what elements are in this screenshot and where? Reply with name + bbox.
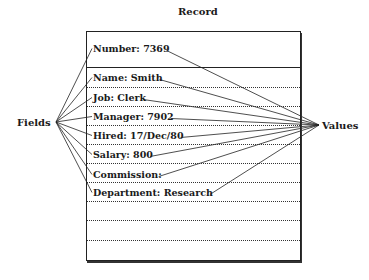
row-separator bbox=[87, 125, 300, 126]
row-separator bbox=[87, 182, 300, 183]
field-hired: Hired: 17/Dec/80 bbox=[93, 130, 184, 141]
row-separator bbox=[87, 144, 300, 145]
field-manager: Manager: 7902 bbox=[93, 111, 174, 122]
field-job: Job: Clerk bbox=[93, 92, 146, 103]
record-box: Number: 7369 Name: Smith Job: Clerk Mana… bbox=[86, 31, 301, 261]
row-separator bbox=[87, 220, 300, 221]
row-separator bbox=[87, 240, 300, 241]
field-name: Name: Smith bbox=[93, 72, 163, 83]
field-salary: Salary: 800 bbox=[93, 149, 153, 160]
field-department: Department: Research bbox=[93, 187, 213, 198]
row-separator bbox=[87, 201, 300, 202]
row-separator bbox=[87, 87, 300, 88]
row-separator bbox=[87, 106, 300, 107]
field-number: Number: 7369 bbox=[93, 43, 170, 54]
row-separator bbox=[87, 163, 300, 164]
field-commission: Commission: bbox=[93, 169, 162, 180]
header-separator bbox=[87, 67, 300, 68]
